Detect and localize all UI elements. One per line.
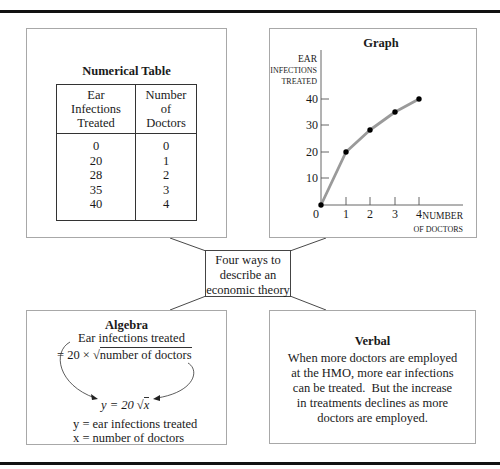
verbal-line: When more doctors are employed [270,351,475,366]
right-curved-arrow-icon [157,363,194,398]
verbal-panel: Verbal When more doctors are employed at… [269,310,476,444]
verbal-line: doctors are employed. [270,411,475,426]
verbal-line: can be treated. But the increase [270,381,475,396]
verbal-line: in treatments declines as more [270,396,475,411]
verbal-line: at the HMO, more ear infections [270,366,475,381]
left-curved-arrow-icon [60,342,95,398]
verbal-title: Verbal [270,334,475,349]
verbal-description: When more doctors are employed at the HM… [270,351,475,426]
